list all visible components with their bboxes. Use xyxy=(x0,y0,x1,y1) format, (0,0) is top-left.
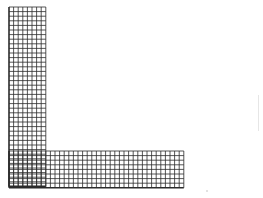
stray-speck xyxy=(206,190,208,192)
faint-vertical-line xyxy=(258,95,259,131)
l-shaped-grid xyxy=(0,0,263,198)
horizontal-grid-bar xyxy=(9,151,184,188)
